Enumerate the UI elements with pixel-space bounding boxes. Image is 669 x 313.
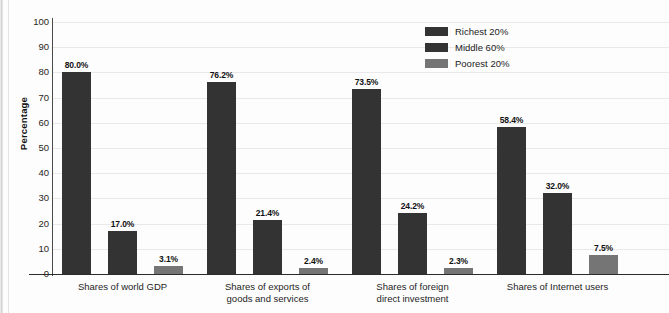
y-tick-label: 20 bbox=[9, 219, 49, 229]
y-tick-label: 60 bbox=[9, 118, 49, 128]
bar-value-label: 2.3% bbox=[436, 256, 481, 266]
plot-area: 80.0%17.0%3.1%76.2%21.4%2.4%73.5%24.2%2.… bbox=[53, 22, 669, 274]
x-axis-line bbox=[29, 274, 669, 275]
bar bbox=[398, 213, 427, 274]
bar bbox=[154, 266, 183, 274]
y-tick-label: 30 bbox=[9, 193, 49, 203]
y-tick-label: 70 bbox=[9, 93, 49, 103]
legend: Richest 20%Middle 60%Poorest 20% bbox=[425, 24, 545, 72]
bar bbox=[352, 89, 381, 274]
gridline bbox=[53, 72, 669, 73]
bar-value-label: 7.5% bbox=[581, 243, 626, 253]
bar-value-label: 32.0% bbox=[535, 181, 580, 191]
bar-value-label: 76.2% bbox=[199, 70, 244, 80]
y-axis-line bbox=[52, 18, 53, 276]
y-tick-label: 90 bbox=[9, 42, 49, 52]
bar bbox=[543, 193, 572, 274]
y-tick-label: 10 bbox=[9, 244, 49, 254]
bar-value-label: 24.2% bbox=[390, 201, 435, 211]
bar bbox=[589, 255, 618, 274]
legend-label: Richest 20% bbox=[455, 26, 508, 37]
legend-item: Richest 20% bbox=[425, 24, 545, 38]
y-tick-label: 40 bbox=[9, 168, 49, 178]
bar bbox=[62, 72, 91, 274]
y-tick-label: 100 bbox=[9, 17, 49, 27]
bar bbox=[207, 82, 236, 274]
legend-item: Middle 60% bbox=[425, 40, 545, 54]
y-axis-tick-labels: 0102030405060708090100 bbox=[5, 0, 49, 313]
y-tick-label: 80 bbox=[9, 67, 49, 77]
x-category-label: Shares of Internet users bbox=[488, 281, 628, 293]
x-category-label: Shares of foreign direct investment bbox=[343, 281, 483, 304]
y-tick-label: 50 bbox=[9, 143, 49, 153]
legend-label: Poorest 20% bbox=[455, 58, 509, 69]
bar-value-label: 80.0% bbox=[54, 60, 99, 70]
legend-color-swatch bbox=[425, 27, 448, 36]
bar-value-label: 73.5% bbox=[344, 77, 389, 87]
bar bbox=[497, 127, 526, 274]
x-category-label: Shares of exports of goods and services bbox=[198, 281, 338, 304]
grouped-bar-chart: Percentage 0102030405060708090100 80.0%1… bbox=[0, 0, 669, 313]
legend-label: Middle 60% bbox=[455, 42, 505, 53]
bar-value-label: 21.4% bbox=[245, 208, 290, 218]
legend-color-swatch bbox=[425, 43, 448, 52]
bar-value-label: 3.1% bbox=[146, 254, 191, 264]
bar bbox=[253, 220, 282, 274]
legend-item: Poorest 20% bbox=[425, 56, 545, 70]
bar-value-label: 2.4% bbox=[291, 256, 336, 266]
gridline bbox=[53, 22, 669, 23]
gridline bbox=[53, 47, 669, 48]
bar-value-label: 17.0% bbox=[100, 219, 145, 229]
x-category-label: Shares of world GDP bbox=[53, 281, 193, 293]
legend-color-swatch bbox=[425, 59, 448, 68]
bar bbox=[108, 231, 137, 274]
bar-value-label: 58.4% bbox=[489, 115, 534, 125]
